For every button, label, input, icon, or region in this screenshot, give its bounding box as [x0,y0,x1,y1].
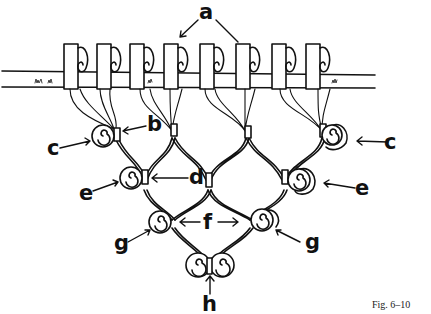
label-c-left: c [47,138,59,159]
label-e-right: e [355,178,369,199]
label-g-left: g [114,233,129,254]
label-c-right: c [384,132,396,153]
macrame-diagram [0,0,431,314]
square-knot-net [114,124,326,264]
hanging-cords [70,89,330,131]
label-a: a [199,2,213,23]
label-f: f [203,212,212,233]
label-b: b [147,114,162,135]
figure-caption: Fig. 6–10 [372,299,410,310]
label-d: d [189,167,204,188]
lark-head-knots [64,44,330,89]
label-g-right: g [305,232,320,253]
label-h: h [202,294,217,314]
label-e-left: e [79,183,93,204]
